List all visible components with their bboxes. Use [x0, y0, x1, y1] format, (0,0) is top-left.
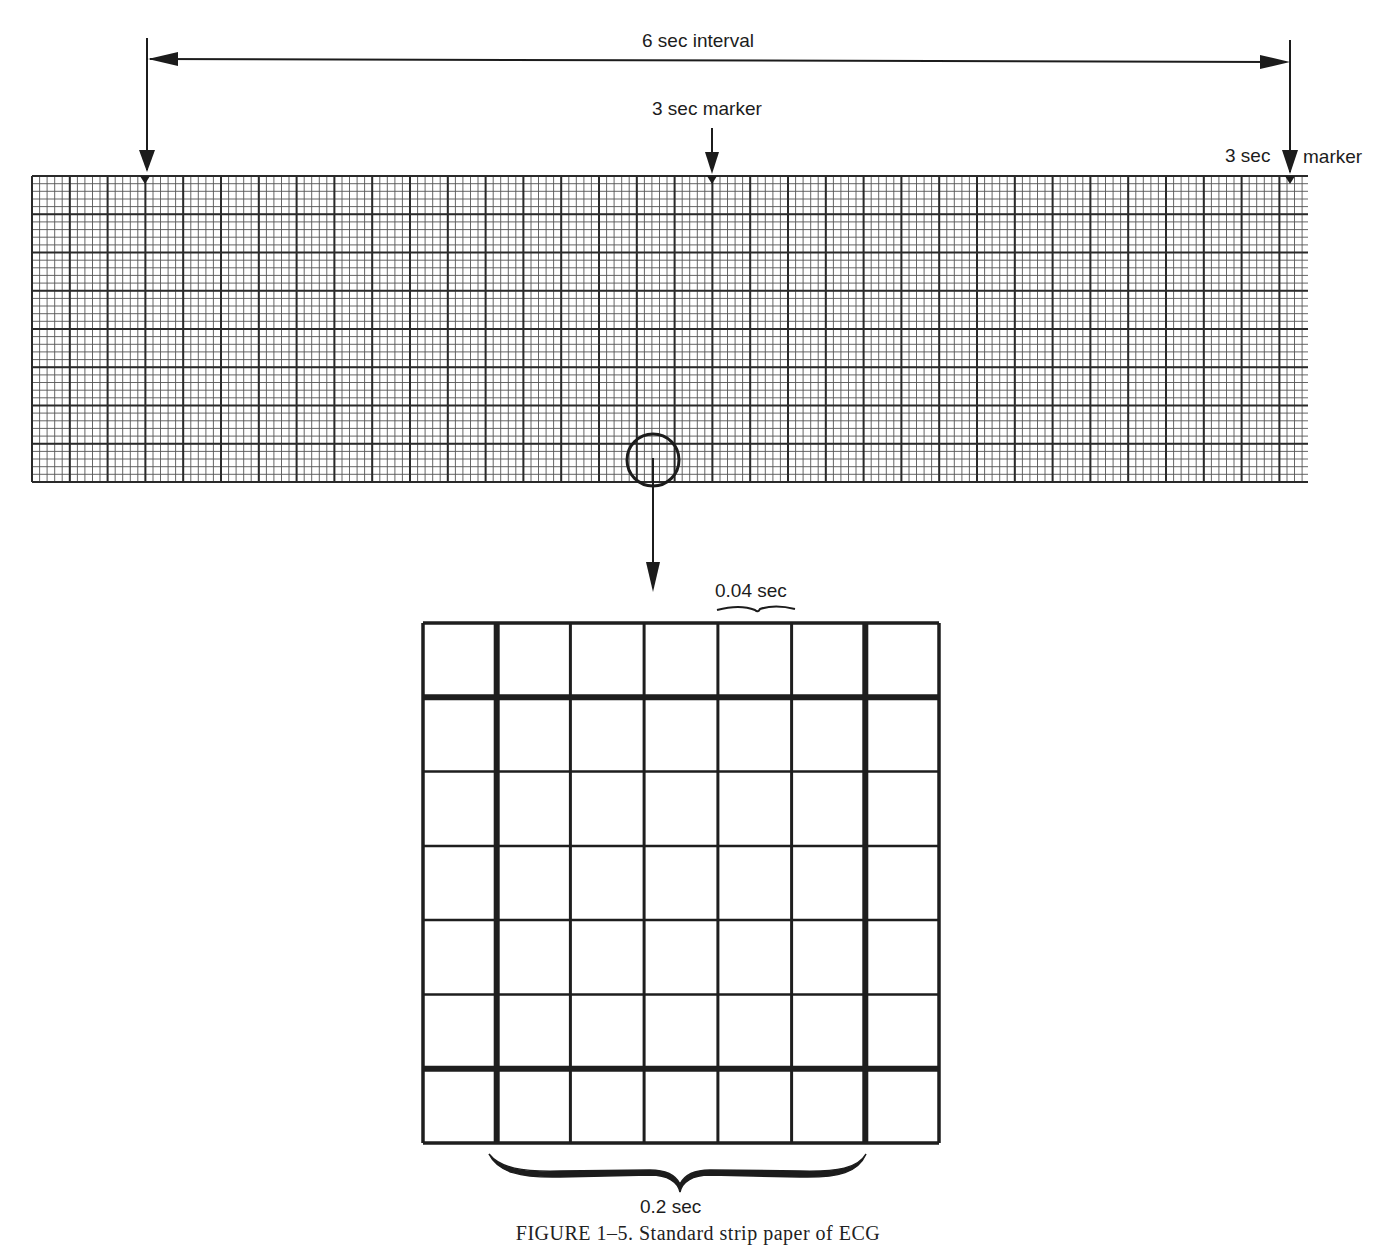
center-marker-arrow [705, 128, 719, 174]
figure-caption: FIGURE 1–5. Standard strip paper of ECG [0, 1222, 1396, 1245]
right-marker-label-b: marker [1303, 146, 1362, 168]
magnifier [627, 434, 679, 592]
timing-marker-icon [707, 176, 717, 184]
arrow-down-icon [646, 562, 660, 592]
ecg-strip-grid [32, 176, 1308, 482]
arrow-down-icon [705, 152, 719, 174]
large-box-duration-label: 0.2 sec [640, 1196, 701, 1218]
timing-marker-icon [1285, 176, 1295, 184]
arrow-left-icon [148, 52, 178, 66]
enlarged-grid-inset [423, 623, 939, 1143]
interval-label: 6 sec interval [642, 30, 754, 52]
timing-marker-icon [140, 176, 150, 184]
small-box-duration-label: 0.04 sec [715, 580, 787, 602]
center-marker-label: 3 sec marker [652, 98, 762, 120]
large-box-brace-icon [489, 1154, 866, 1192]
arrow-down-icon [1282, 150, 1298, 174]
small-box-bracket-icon [717, 607, 795, 612]
arrow-right-icon [1260, 55, 1290, 69]
arrow-down-icon [139, 150, 155, 172]
right-marker-label-a: 3 sec [1225, 145, 1270, 167]
